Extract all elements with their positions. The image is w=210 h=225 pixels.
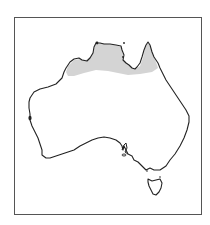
australia-map	[0, 0, 210, 225]
kangaroo-island	[122, 154, 126, 156]
island	[123, 42, 125, 44]
shark-bay	[28, 116, 31, 120]
tasmania	[148, 179, 162, 195]
island	[159, 176, 161, 178]
island	[96, 42, 99, 45]
island	[122, 56, 124, 58]
island	[146, 170, 148, 172]
